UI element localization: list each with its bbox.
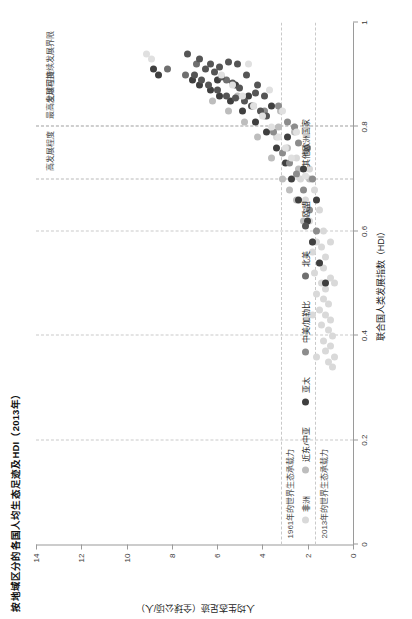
biocapacity-2013-line [315,22,316,544]
legend-item-label: 中美/加勒比 [300,301,311,343]
data-point [284,118,291,125]
x-tick [353,125,358,126]
legend: 非洲近东/中亚亚太中美/加勒比北美欧盟其他欧洲国家 [300,119,311,523]
data-point [320,337,327,344]
data-point [268,102,275,109]
data-point [232,94,239,101]
data-point [259,112,266,119]
x-tick-label: 0 [360,542,369,546]
data-point [234,60,241,67]
data-point [313,353,320,360]
data-point [209,97,216,104]
data-point [143,50,150,57]
legend-marker-icon [302,272,309,279]
legend-item-4[interactable]: 中美/加勒比 [300,301,311,355]
data-point [293,170,300,177]
y-tick [36,544,37,549]
legend-item-5[interactable]: 北美 [300,251,311,279]
legend-item-label: 亚太 [300,377,311,393]
data-point [331,353,338,360]
legend-item-6[interactable]: 欧盟 [300,201,311,229]
y-tick-label: 12 [77,553,86,562]
y-tick [172,544,173,549]
legend-marker-icon [302,516,309,523]
data-point [311,186,318,193]
data-point [273,144,280,151]
data-point [225,107,232,114]
chart-figure: 按地域区分的各国人均生态足迹及HDI（2013年） 人均生态足迹（全球公顷/人）… [0,0,412,619]
data-point [182,71,189,78]
x-tick-label: 0.8 [360,121,369,132]
data-point [155,71,162,78]
legend-item-3[interactable]: 亚太 [300,377,311,405]
data-point [184,50,191,57]
data-point [282,144,289,151]
data-point [164,65,171,72]
y-tick [127,544,128,549]
data-point [191,71,198,78]
legend-item-label: 非洲 [300,495,311,511]
x-tick-label: 0.6 [360,225,369,236]
data-point [325,326,332,333]
rotated-figure-wrapper: 按地域区分的各国人均生态足迹及HDI（2013年） 人均生态足迹（全球公顷/人）… [0,0,412,619]
x-axis-title: 联合国人类发展指数（HDI） [374,22,387,545]
legend-item-2[interactable]: 近东/中亚 [300,427,311,473]
legend-item-label: 北美 [300,251,311,267]
y-tick-label: 0 [349,553,358,557]
x-tick-label: 1 [360,20,369,24]
data-point [279,107,286,114]
data-point [325,358,332,365]
data-point [322,253,329,260]
y-axis-title: 人均生态足迹（全球公顷/人） [36,597,354,619]
data-point [207,60,214,67]
data-point [322,311,329,318]
data-point [279,175,286,182]
data-point [239,92,246,99]
y-tick-label: 4 [258,553,267,557]
data-point [313,290,320,297]
legend-marker-icon [302,172,309,179]
data-point [218,71,225,78]
y-tick [262,544,263,549]
data-point [241,118,248,125]
y-tick [308,544,309,549]
y-tick-label: 6 [213,553,222,557]
data-point [205,81,212,88]
data-point [223,92,230,99]
biocapacity-1961-line [281,22,282,544]
data-point [268,154,275,161]
y-tick [81,544,82,549]
data-point [266,86,273,93]
data-point [322,280,329,287]
data-point [216,63,223,70]
legend-marker-icon [302,348,309,355]
data-point [320,227,327,234]
data-point [284,133,291,140]
page-title: 按地域区分的各国人均生态足迹及HDI（2013年） [8,389,22,612]
legend-item-7[interactable]: 其他欧洲国家 [300,119,311,179]
data-point [327,238,334,245]
data-point [293,128,300,135]
legend-marker-icon [302,466,309,473]
y-tick [353,544,354,549]
data-point [252,89,259,96]
legend-item-label: 近东/中亚 [300,427,311,461]
data-point [254,81,261,88]
data-point [316,259,323,266]
legend-item-1[interactable]: 非洲 [300,495,311,523]
y-tick-label: 10 [122,553,131,562]
data-point [313,227,320,234]
x-tick [353,439,358,440]
legend-marker-icon [302,222,309,229]
data-point [252,118,259,125]
legend-item-label: 其他欧洲国家 [300,119,311,167]
legend-marker-icon [302,398,309,405]
data-point [316,306,323,313]
data-point [318,321,325,328]
data-point [331,280,338,287]
y-tick-label: 2 [303,553,312,557]
y-axis-title-text: 人均生态足迹（全球公顷/人） [135,601,255,614]
data-point [239,107,246,114]
x-tick [353,334,358,335]
annotation-high-development: 高发展程度 [44,131,55,171]
